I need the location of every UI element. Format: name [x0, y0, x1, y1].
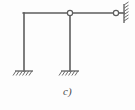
hinge-right-end [113, 10, 118, 15]
support-right-wall [124, 2, 129, 23]
support-middle-fixed [59, 71, 79, 76]
hinge-middle-top [67, 10, 72, 15]
members-group [23, 13, 124, 71]
figure-caption: c) [0, 84, 135, 98]
figure-container: c) [0, 0, 135, 110]
support-left-fixed [13, 71, 33, 76]
